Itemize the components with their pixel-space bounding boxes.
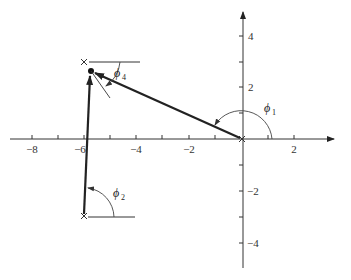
svg-text:ϕ: ϕ <box>113 186 119 200</box>
y-tick-label-neg2: −2 <box>247 185 259 197</box>
svg-text:1: 1 <box>272 108 276 117</box>
svg-text:ϕ: ϕ <box>114 66 120 80</box>
x-tick-label-neg8: −8 <box>26 143 38 155</box>
pole-upper-marker <box>81 59 87 65</box>
y-tick-label-neg4: −4 <box>247 237 259 249</box>
x-tick-label-neg4: −4 <box>130 143 142 155</box>
y-tick-label-2: 2 <box>248 81 254 93</box>
x-tick-label-2: 2 <box>291 143 297 155</box>
phi1-label: ϕ 1 <box>264 101 276 117</box>
svg-text:4: 4 <box>122 73 126 82</box>
svg-text:ϕ: ϕ <box>264 101 270 115</box>
vector-from-origin-pole <box>95 73 240 138</box>
root-locus-diagram: −8 −6 −4 −2 2 4 2 −2 −4 ϕ 1 ϕ 2 ϕ <box>0 0 351 280</box>
x-tick-label-neg2: −2 <box>183 143 195 155</box>
phi2-angle-arc <box>88 188 114 217</box>
phi4-label: ϕ 4 <box>114 66 126 82</box>
x-tick-label-neg6: −6 <box>74 143 86 155</box>
x-ticks <box>32 135 294 139</box>
svg-text:2: 2 <box>121 193 125 202</box>
y-tick-label-4: 4 <box>248 30 254 42</box>
phi2-label: ϕ 2 <box>113 186 125 202</box>
